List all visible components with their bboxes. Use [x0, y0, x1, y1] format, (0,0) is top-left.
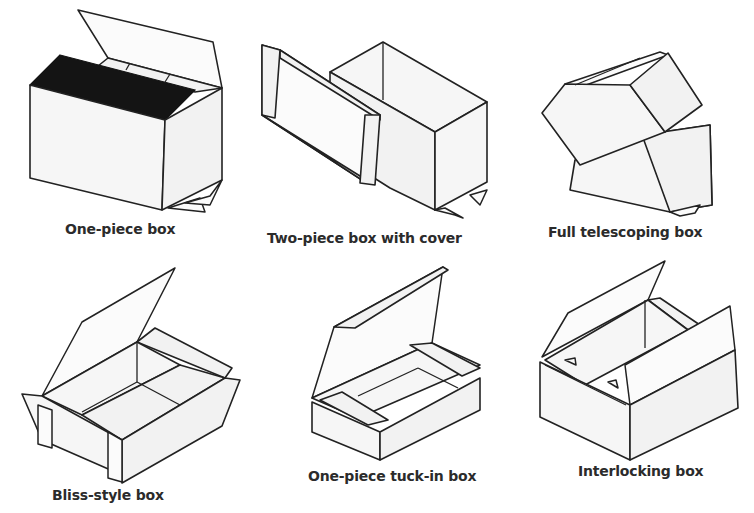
bliss-style-box-illustration [22, 268, 240, 483]
label-one-piece-box: One-piece box [65, 221, 175, 237]
label-interlocking-box: Interlocking box [578, 463, 703, 479]
label-one-piece-tuck-in-box: One-piece tuck-in box [308, 468, 476, 484]
one-piece-tuck-in-box-illustration [312, 267, 480, 460]
interlocking-box-illustration [540, 261, 738, 460]
label-full-telescoping-box: Full telescoping box [548, 224, 702, 240]
two-piece-box-with-cover-illustration [262, 42, 487, 218]
label-two-piece-box-with-cover: Two-piece box with cover [267, 230, 462, 246]
label-bliss-style-box: Bliss-style box [52, 487, 164, 503]
one-piece-box-illustration [30, 10, 222, 212]
full-telescoping-box-illustration [542, 52, 712, 216]
box-styles-diagram [0, 0, 754, 513]
